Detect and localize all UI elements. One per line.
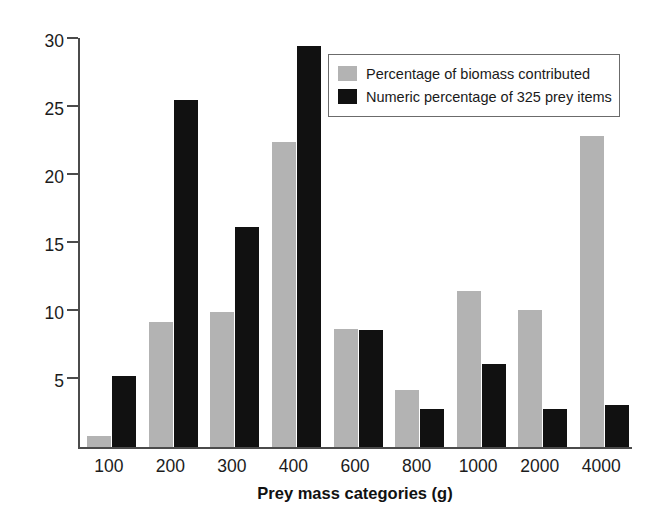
y-tick-label-25: 25	[45, 99, 64, 120]
bar-200-series1	[149, 322, 173, 447]
y-tick-label-10: 10	[45, 303, 64, 324]
legend-label-1: Percentage of biomass contributed	[366, 66, 590, 82]
bar-4000-series2	[605, 405, 629, 447]
legend-entry-2: Numeric percentage of 325 prey items	[338, 85, 610, 108]
x-tick-label-200: 200	[156, 456, 185, 477]
y-tick-15	[67, 241, 78, 243]
y-tick-20	[67, 173, 78, 175]
legend-label-2: Numeric percentage of 325 prey items	[366, 89, 612, 105]
bar-chart-figure: 51015202530 Percentage 10020030040060080…	[0, 0, 648, 528]
x-tick-label-100: 100	[94, 456, 123, 477]
x-axis-line	[78, 447, 632, 449]
bar-400-series1	[272, 142, 296, 447]
x-tick-label-2000: 2000	[520, 456, 559, 477]
y-axis-line	[78, 38, 80, 449]
x-tick-label-300: 300	[217, 456, 246, 477]
y-tick-25	[67, 105, 78, 107]
bar-200-series2	[174, 100, 198, 447]
bar-300-series2	[235, 227, 259, 447]
bar-100-series2	[112, 376, 136, 447]
y-tick-5	[67, 377, 78, 379]
x-tick-label-400: 400	[279, 456, 308, 477]
bar-2000-series2	[543, 409, 567, 447]
bar-2000-series1	[518, 310, 542, 447]
bar-400-series2	[297, 46, 321, 447]
bar-600-series2	[359, 330, 383, 447]
legend-entry-1: Percentage of biomass contributed	[338, 62, 610, 85]
bar-800-series2	[420, 409, 444, 447]
y-tick-10	[67, 309, 78, 311]
bar-1000-series1	[457, 291, 481, 447]
bar-4000-series1	[580, 136, 604, 447]
y-tick-label-15: 15	[45, 235, 64, 256]
bar-800-series1	[395, 390, 419, 447]
legend-swatch-gray	[338, 66, 357, 81]
bar-100-series1	[87, 436, 111, 447]
chart-legend: Percentage of biomass contributedNumeric…	[328, 54, 620, 117]
legend-swatch-black	[338, 89, 357, 104]
bar-300-series1	[210, 312, 234, 447]
bar-1000-series2	[482, 364, 506, 447]
x-tick-label-4000: 4000	[582, 456, 621, 477]
y-tick-30	[67, 37, 78, 39]
x-tick-label-1000: 1000	[459, 456, 498, 477]
x-tick-label-600: 600	[340, 456, 369, 477]
y-tick-label-20: 20	[45, 167, 64, 188]
x-tick-label-800: 800	[402, 456, 431, 477]
y-tick-label-5: 5	[54, 371, 64, 392]
y-tick-label-30: 30	[45, 31, 64, 52]
y-axis-tick-labels: 51015202530	[0, 0, 78, 528]
x-axis-title: Prey mass categories (g)	[257, 484, 452, 503]
bar-600-series1	[334, 329, 358, 447]
